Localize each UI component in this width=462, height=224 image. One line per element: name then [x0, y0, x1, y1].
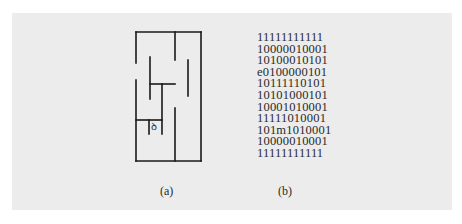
maze-diagram: ꝺ — [0, 0, 462, 224]
caption-b: (b) — [278, 184, 292, 199]
caption-a: (a) — [160, 184, 173, 199]
maze-matrix: 111111111111000001000110100010101e010000… — [257, 32, 331, 160]
mouse-icon: ꝺ — [151, 121, 157, 132]
matrix-row: 11111111111 — [257, 148, 331, 160]
